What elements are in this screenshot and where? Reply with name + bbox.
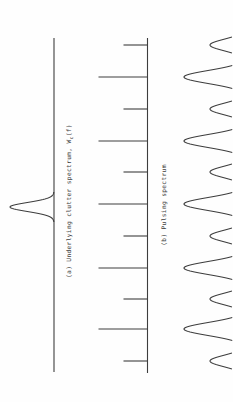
panel-a-caption-subscript: c (69, 136, 74, 139)
pulsed-spectrum-peak-small (210, 37, 232, 53)
panel-b-caption-text: (b) Pulsing spectrum (160, 164, 167, 246)
panel-a-caption: (a) Underlying clutter spectrum, Wc(f) (64, 128, 74, 278)
panel-b-caption: (b) Pulsing spectrum (159, 162, 169, 248)
pulsed-spectrum-peak-small (210, 228, 232, 244)
pulsed-spectrum-peak-tall (184, 257, 232, 280)
panel-a-caption-suffix: (f) (65, 124, 72, 136)
pulsed-spectrum-peak-tall (184, 318, 232, 341)
pulsed-spectrum-peak-tall (184, 66, 232, 89)
pulsed-spectrum-peak-small (210, 353, 232, 369)
panel-a-caption-text: (a) Underlying clutter spectrum, W (65, 139, 72, 278)
pulsed-spectrum-peak-small (210, 164, 232, 180)
pulsed-spectrum-peak-tall (184, 193, 232, 216)
figure-lines (0, 0, 233, 402)
clutter-spectrum-peak (10, 192, 54, 222)
pulsed-spectrum-peak-small (210, 291, 232, 307)
figure-canvas: (a) Underlying clutter spectrum, Wc(f) (… (0, 0, 233, 402)
pulsed-spectrum-peak-tall (184, 130, 232, 153)
pulsed-spectrum-peak-small (210, 101, 232, 117)
